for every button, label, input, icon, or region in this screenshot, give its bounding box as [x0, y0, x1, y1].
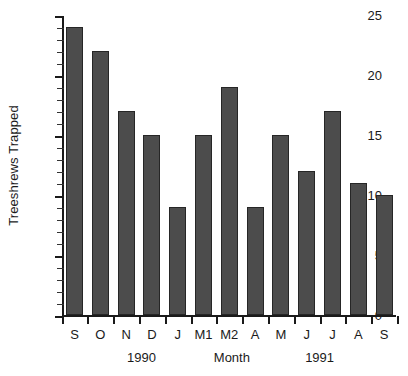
- x-axis-tick: [165, 316, 167, 324]
- y-axis-tick-label: 15: [354, 128, 382, 143]
- y-axis-minor-tick: [57, 112, 64, 113]
- bar: [247, 207, 264, 315]
- x-axis-group-label: 1990: [107, 350, 177, 365]
- x-axis-group-label: Month: [197, 350, 267, 365]
- y-axis-title: Treeshrews Trapped: [0, 0, 26, 330]
- bar: [169, 207, 186, 315]
- y-axis-major-tick: [55, 136, 64, 138]
- y-axis-minor-tick: [57, 220, 64, 221]
- y-axis-minor-tick: [57, 208, 64, 209]
- y-axis-minor-tick: [57, 184, 64, 185]
- x-axis-tick: [113, 316, 115, 324]
- x-axis-tick: [216, 316, 218, 324]
- y-axis-minor-tick: [57, 124, 64, 125]
- bar: [324, 111, 341, 315]
- y-axis-title-text: Treeshrews Trapped: [6, 105, 21, 226]
- bar: [350, 183, 367, 315]
- y-axis-tick-label: 25: [354, 8, 382, 23]
- y-axis-tick-label: 20: [354, 68, 382, 83]
- y-axis-major-tick: [55, 16, 64, 18]
- x-axis-tick: [242, 316, 244, 324]
- x-axis-tick: [62, 316, 64, 324]
- x-axis-tick: [294, 316, 296, 324]
- x-axis-tick: [397, 316, 399, 324]
- x-axis-tick-label: S: [369, 327, 399, 342]
- y-axis-minor-tick: [57, 100, 64, 101]
- y-axis-major-tick: [55, 76, 64, 78]
- y-axis-minor-tick: [57, 232, 64, 233]
- y-axis-minor-tick: [57, 52, 64, 53]
- y-axis-minor-tick: [57, 292, 64, 293]
- bar: [376, 195, 393, 315]
- bar: [92, 51, 109, 315]
- x-axis-tick: [320, 316, 322, 324]
- bar: [118, 111, 135, 315]
- y-axis-minor-tick: [57, 304, 64, 305]
- y-axis-major-tick: [55, 196, 64, 198]
- x-axis-tick: [191, 316, 193, 324]
- y-axis-line: [62, 16, 64, 317]
- x-axis-tick: [139, 316, 141, 324]
- y-axis-minor-tick: [57, 40, 64, 41]
- bar: [195, 135, 212, 315]
- y-axis-minor-tick: [57, 28, 64, 29]
- y-axis-minor-tick: [57, 172, 64, 173]
- bar: [143, 135, 160, 315]
- bar: [66, 27, 83, 315]
- y-axis-minor-tick: [57, 160, 64, 161]
- y-axis-minor-tick: [57, 280, 64, 281]
- bar-chart-figure: Treeshrews Trapped 0510152025 SONDJM1M2A…: [0, 0, 408, 376]
- y-axis-major-tick: [55, 256, 64, 258]
- x-axis-group-label: 1991: [285, 350, 355, 365]
- x-axis-tick: [371, 316, 373, 324]
- y-axis-minor-tick: [57, 268, 64, 269]
- x-axis-tick: [345, 316, 347, 324]
- y-axis-minor-tick: [57, 148, 64, 149]
- x-axis-tick: [268, 316, 270, 324]
- y-axis-minor-tick: [57, 88, 64, 89]
- bar: [298, 171, 315, 315]
- bar: [221, 87, 238, 315]
- y-axis-minor-tick: [57, 64, 64, 65]
- bar: [272, 135, 289, 315]
- x-axis-tick: [87, 316, 89, 324]
- y-axis-minor-tick: [57, 244, 64, 245]
- plot-area: 0510152025: [62, 16, 396, 316]
